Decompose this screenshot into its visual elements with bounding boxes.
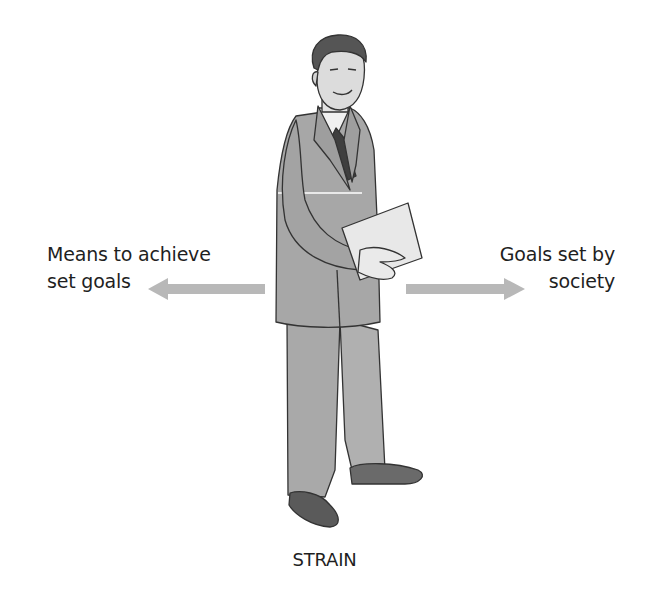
goals-set-by-society-label: Goals set by society (500, 241, 615, 295)
left-label-line2: set goals (47, 268, 211, 295)
right-label-line1: Goals set by (500, 241, 615, 268)
businessman-illustration (276, 35, 422, 527)
strain-caption: STRAIN (0, 546, 649, 573)
means-to-achieve-label: Means to achieve set goals (47, 241, 211, 295)
left-label-line1: Means to achieve (47, 241, 211, 268)
right-label-line2: society (500, 268, 615, 295)
